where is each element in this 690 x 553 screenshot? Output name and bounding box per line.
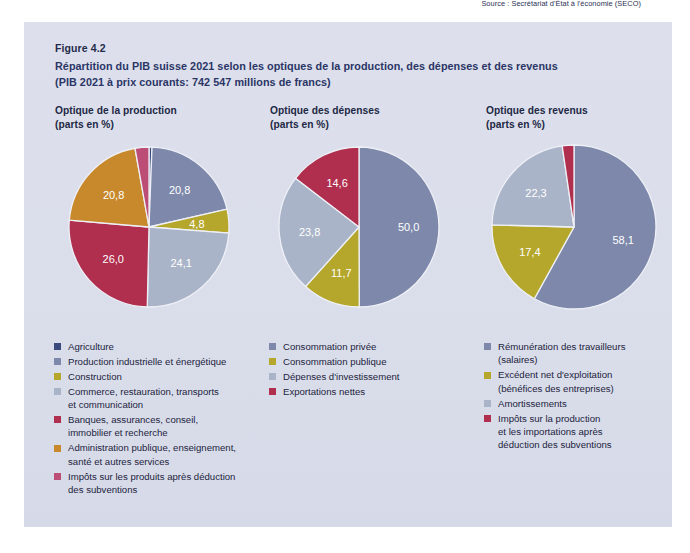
pie-chart-revenus-svg: 58,117,422,32,3 — [469, 132, 679, 342]
legend-swatch — [54, 373, 61, 380]
legend-label: Consommation privée — [283, 340, 376, 353]
slice-value-label: 58,1 — [612, 234, 633, 246]
pie-chart-depenses-svg: 50,011,723,814,6 — [259, 132, 479, 342]
legend-swatch — [484, 372, 491, 379]
pie-chart-production-svg: 0,620,84,824,126,020,82,8 — [44, 132, 274, 342]
legend-swatch — [54, 343, 61, 350]
chart-1-heading: Optique de la production (parts en %) — [55, 104, 177, 132]
slice-value-label: 4,8 — [189, 218, 204, 230]
legend-revenus: Rémunération des travailleurs(salaires)E… — [484, 340, 674, 453]
legend-swatch — [54, 445, 61, 452]
slice-value-label: 20,8 — [169, 184, 190, 196]
legend-label: Impôts sur la productionet les importati… — [498, 412, 612, 452]
chart-2-heading: Optique des dépenses (parts en %) — [270, 104, 380, 132]
source-note: Source : Secrétariat d'État à l'économie… — [481, 0, 641, 8]
legend-item: Agriculture — [54, 340, 279, 353]
legend-label: Impôts sur les produits après déductiond… — [68, 470, 235, 497]
legend-label: Excédent net d'exploitation(bénéfices de… — [498, 368, 614, 395]
legend-item: Impôts sur la productionet les importati… — [484, 412, 674, 452]
slice-value-label: 14,6 — [326, 177, 347, 189]
legend-swatch — [269, 358, 276, 365]
legend-item: Administration publique, enseignement,sa… — [54, 441, 279, 468]
legend-item: Consommation privée — [269, 340, 479, 353]
legend-label: Banques, assurances, conseil,immobilier … — [68, 413, 198, 440]
slice-value-label: 26,0 — [103, 253, 124, 265]
legend-item: Banques, assurances, conseil,immobilier … — [54, 413, 279, 440]
legend-swatch — [484, 343, 491, 350]
chart-1-title: Optique de la production — [55, 104, 177, 118]
legend-item: Construction — [54, 370, 279, 383]
legend-item: Amortissements — [484, 397, 674, 410]
chart-3-heading: Optique des revenus (parts en %) — [486, 104, 588, 132]
figure-panel: Figure 4.2 Répartition du PIB suisse 202… — [24, 22, 672, 527]
pie-chart-production: 0,620,84,824,126,020,82,8 — [44, 132, 274, 346]
slice-value-label: 23,8 — [299, 226, 320, 238]
legend-production: AgricultureProduction industrielle et én… — [54, 340, 279, 498]
legend-item: Excédent net d'exploitation(bénéfices de… — [484, 368, 674, 395]
legend-swatch — [484, 415, 491, 422]
figure-number: Figure 4.2 — [55, 42, 106, 54]
legend-label: Administration publique, enseignement,sa… — [68, 441, 236, 468]
chart-3-title: Optique des revenus — [486, 104, 588, 118]
legend-label: Construction — [68, 370, 122, 383]
legend-swatch — [54, 388, 61, 395]
legend-swatch — [54, 473, 61, 480]
legend-item: Commerce, restauration, transportset com… — [54, 385, 279, 412]
legend-label: Commerce, restauration, transportset com… — [68, 385, 219, 412]
figure-title: Répartition du PIB suisse 2021 selon les… — [55, 58, 655, 74]
legend-label: Production industrielle et énergétique — [68, 355, 226, 368]
legend-label: Consommation publique — [283, 355, 386, 368]
legend-swatch — [269, 343, 276, 350]
slice-value-label: 17,4 — [519, 246, 540, 258]
legend-label: Dépenses d'investissement — [283, 370, 399, 383]
legend-swatch — [484, 400, 491, 407]
slice-value-label: 22,3 — [525, 187, 546, 199]
legend-item: Consommation publique — [269, 355, 479, 368]
legend-depenses: Consommation privéeConsommation publique… — [269, 340, 479, 400]
legend-item: Impôts sur les produits après déductiond… — [54, 470, 279, 497]
legend-item: Dépenses d'investissement — [269, 370, 479, 383]
chart-1-units: (parts en %) — [55, 118, 177, 132]
pie-chart-depenses: 50,011,723,814,6 — [259, 132, 479, 346]
legend-item: Exportations nettes — [269, 385, 479, 398]
legend-label: Amortissements — [498, 397, 567, 410]
legend-swatch — [54, 416, 61, 423]
figure-subtitle: (PIB 2021 à prix courants: 742 547 milli… — [55, 74, 655, 90]
chart-2-units: (parts en %) — [270, 118, 380, 132]
slice-value-label: 20,8 — [103, 189, 124, 201]
legend-label: Agriculture — [68, 340, 114, 353]
legend-label: Exportations nettes — [283, 385, 365, 398]
legend-swatch — [269, 373, 276, 380]
legend-item: Rémunération des travailleurs(salaires) — [484, 340, 674, 367]
legend-swatch — [269, 388, 276, 395]
chart-2-title: Optique des dépenses — [270, 104, 380, 118]
legend-swatch — [54, 358, 61, 365]
chart-3-units: (parts en %) — [486, 118, 588, 132]
slice-value-label: 11,7 — [331, 267, 352, 279]
slice-value-label: 50,0 — [398, 221, 419, 233]
legend-item: Production industrielle et énergétique — [54, 355, 279, 368]
legend-label: Rémunération des travailleurs(salaires) — [498, 340, 625, 367]
slice-value-label: 24,1 — [170, 257, 191, 269]
pie-chart-revenus: 58,117,422,32,3 — [469, 132, 679, 346]
